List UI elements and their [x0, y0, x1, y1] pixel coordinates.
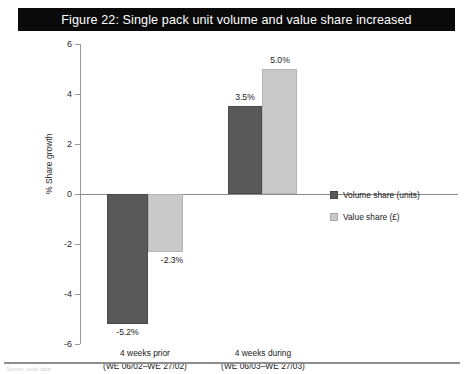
- legend-label-value-share: Value share (£): [343, 212, 400, 222]
- y-tick-label-2: 2: [67, 139, 72, 149]
- bar-label-value-4-weeks-prior: -2.3%: [148, 255, 196, 265]
- figure-title-bar: Figure 22: Single pack unit volume and v…: [18, 8, 455, 31]
- y-tick-label-minus2: -2: [64, 239, 72, 249]
- y-tick-label-minus4: -4: [64, 289, 72, 299]
- category-label-line1: 4 weeks prior: [120, 348, 170, 358]
- bar-value-4-weeks-prior[interactable]: [148, 194, 183, 252]
- y-axis-title: % Share growth: [44, 134, 54, 194]
- y-tick-label-4: 4: [67, 89, 72, 99]
- legend-swatch-icon-volume-share: [330, 191, 338, 199]
- legend-item-value-share[interactable]: Value share (£): [330, 212, 420, 222]
- y-tick-label-6: 6: [67, 39, 72, 49]
- bar-volume-4-weeks-during[interactable]: [228, 106, 262, 194]
- figure-page: Figure 22: Single pack unit volume and v…: [0, 0, 470, 374]
- y-tick-label-minus6: -6: [64, 339, 72, 349]
- legend-swatch-icon-value-share: [330, 213, 338, 221]
- footer-source-note: Source: retail data: [6, 366, 51, 372]
- category-label-4-weeks-prior: 4 weeks prior (WE 06/02–WE 27/02): [80, 347, 210, 373]
- bar-label-volume-4-weeks-prior: -5.2%: [93, 327, 162, 337]
- legend-label-volume-share: Volume share (units): [343, 190, 420, 200]
- bar-label-value-4-weeks-during: 5.0%: [246, 55, 314, 65]
- bar-volume-4-weeks-prior[interactable]: [107, 194, 148, 324]
- footer-divider: [4, 362, 460, 364]
- category-label-line1: 4 weeks during: [235, 348, 291, 358]
- chart-legend: Volume share (units) Value share (£): [330, 190, 420, 234]
- legend-item-volume-share[interactable]: Volume share (units): [330, 190, 420, 200]
- category-label-4-weeks-during: 4 weeks during (WE 06/03–WE 27/03): [198, 347, 328, 373]
- figure-title: Figure 22: Single pack unit volume and v…: [61, 13, 411, 27]
- bar-value-4-weeks-during[interactable]: [262, 69, 297, 194]
- y-tick-label-0: 0: [67, 189, 72, 199]
